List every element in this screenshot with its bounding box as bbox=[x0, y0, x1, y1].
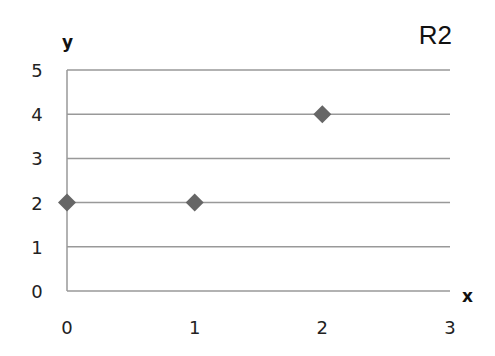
x-tick-labels: 0123 bbox=[61, 317, 455, 338]
diamond-marker bbox=[313, 105, 331, 123]
y-tick-label: 2 bbox=[31, 193, 42, 214]
y-tick-label: 4 bbox=[31, 104, 42, 125]
y-tick-label: 1 bbox=[31, 237, 42, 258]
x-tick-label: 0 bbox=[61, 317, 72, 338]
y-axis-label: y bbox=[62, 32, 73, 52]
y-tick-label: 0 bbox=[31, 281, 42, 302]
scatter-chart: 012345 0123 y x R2 bbox=[0, 0, 495, 356]
x-axis-label: x bbox=[462, 286, 473, 306]
gridlines bbox=[67, 70, 450, 291]
chart-title: R2 bbox=[419, 20, 452, 50]
x-tick-label: 2 bbox=[317, 317, 328, 338]
diamond-marker bbox=[58, 194, 76, 212]
x-tick-label: 1 bbox=[189, 317, 200, 338]
y-tick-label: 5 bbox=[31, 60, 42, 81]
y-tick-label: 3 bbox=[31, 148, 42, 169]
diamond-marker bbox=[186, 194, 204, 212]
x-tick-label: 3 bbox=[444, 317, 455, 338]
y-tick-labels: 012345 bbox=[31, 60, 42, 302]
